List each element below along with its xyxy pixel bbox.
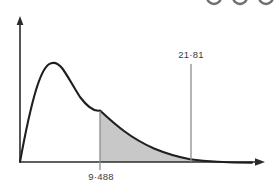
upper-value-label: 21·81	[178, 49, 203, 60]
y-axis-arrow-icon	[17, 16, 24, 25]
punch-hole-icon	[207, 0, 221, 4]
x-axis-arrow-icon	[255, 158, 265, 166]
punch-hole-icon	[233, 0, 247, 4]
chi-squared-figure: 21·81 9·488	[0, 0, 274, 188]
chi-squared-plot: 21·81 9·488	[0, 0, 274, 188]
punch-hole-icon	[259, 0, 273, 4]
critical-value-label: 9·488	[88, 171, 113, 182]
punch-hole-marks	[207, 0, 273, 4]
